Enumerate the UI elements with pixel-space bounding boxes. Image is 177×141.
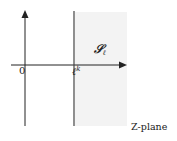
region-label-base: 𝒮 xyxy=(94,42,103,56)
boundary-line-label-superscript: k xyxy=(76,65,80,73)
region-label-subscript: ℓ xyxy=(103,49,106,57)
shaded-region xyxy=(75,12,127,126)
diagram-canvas xyxy=(0,0,177,141)
imaginary-axis-arrowhead xyxy=(22,10,29,18)
boundary-line-label: ℓk xyxy=(72,66,80,77)
z-plane-diagram: 0 ℓk 𝒮ℓ Z-plane xyxy=(0,0,177,141)
region-label: 𝒮ℓ xyxy=(94,43,106,57)
origin-label: 0 xyxy=(19,66,25,76)
plane-label: Z-plane xyxy=(131,122,167,132)
